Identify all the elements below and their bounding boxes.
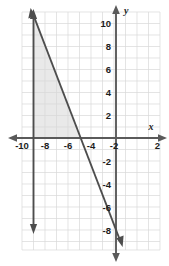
y-tick-label: 6 <box>106 64 111 75</box>
x-tick-label: -6 <box>64 140 72 151</box>
x-tick-label: -2 <box>110 140 118 151</box>
x-tick-label: -4 <box>87 140 96 151</box>
x-tick-label: -8 <box>41 140 49 151</box>
y-tick-label: -4 <box>103 179 112 190</box>
y-tick-label: 8 <box>106 41 111 52</box>
x-tick-label: 2 <box>155 140 160 151</box>
y-tick-label: -6 <box>103 202 111 213</box>
y-tick-label: -8 <box>103 225 111 236</box>
y-axis-label: y <box>123 5 129 16</box>
x-tick-label: -10 <box>15 140 29 151</box>
y-axis-arrow-down <box>112 253 120 262</box>
y-tick-label: 2 <box>106 110 111 121</box>
y-axis-arrow-up <box>112 5 120 14</box>
y-tick-label: 4 <box>106 87 112 98</box>
coordinate-plane-figure: -10 -8 -6 -4 -2 2 10 8 6 4 2 -2 -4 -6 -8… <box>0 0 169 266</box>
graph-canvas: -10 -8 -6 -4 -2 2 10 8 6 4 2 -2 -4 -6 -8… <box>0 0 169 266</box>
y-tick-label: 10 <box>100 18 111 29</box>
y-tick-label: -2 <box>103 156 111 167</box>
x-axis-label: x <box>148 121 154 132</box>
